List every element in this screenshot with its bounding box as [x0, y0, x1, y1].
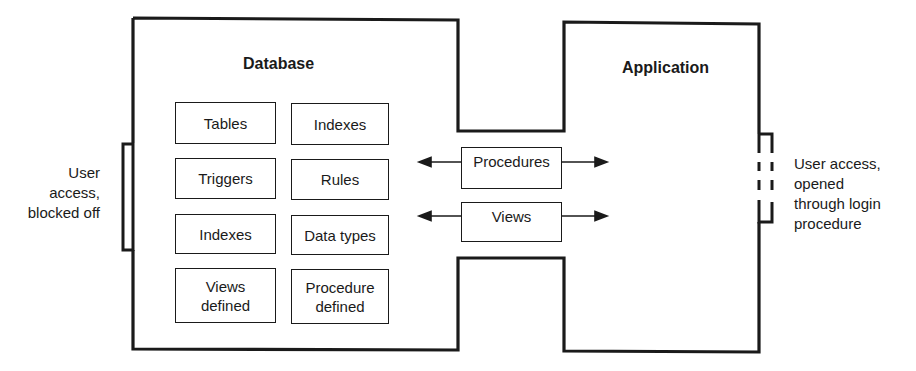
component-label: Tables: [204, 114, 247, 133]
component-label: Triggers: [198, 169, 252, 188]
arrow-right-icon: [595, 158, 607, 167]
component-label: Procedure defined: [305, 278, 374, 316]
diagram-outline: [0, 0, 916, 371]
component-tables: Tables: [175, 102, 276, 144]
component-views-defined: Views defined: [175, 268, 276, 323]
interface-views: Views: [461, 202, 562, 242]
arrow-left-icon: [419, 158, 431, 167]
interface-procedures: Procedures: [461, 147, 562, 189]
interface-label: Views: [492, 207, 532, 226]
component-indexes: Indexes: [291, 103, 389, 145]
component-label: Indexes: [199, 225, 252, 244]
database-title: Database: [243, 55, 314, 73]
right-annotation-open-access: User access, opened through login proced…: [794, 154, 881, 234]
component-procedure-defined: Procedure defined: [291, 269, 389, 324]
right-open-access-port: [759, 134, 772, 222]
component-label: Rules: [321, 170, 359, 189]
component-label: Indexes: [314, 115, 367, 134]
component-label: Views defined: [201, 277, 250, 315]
interface-label: Procedures: [473, 152, 550, 171]
component-indexes-2: Indexes: [175, 214, 276, 254]
left-annotation-blocked-access: User access, blocked off: [28, 163, 100, 223]
component-triggers: Triggers: [175, 158, 276, 199]
arrow-right-icon: [595, 212, 607, 221]
component-rules: Rules: [291, 159, 389, 200]
arrow-left-icon: [419, 212, 431, 221]
component-label: Data types: [304, 226, 376, 245]
left-blocked-access-tab: [123, 143, 133, 251]
application-title: Application: [622, 59, 709, 77]
component-data-types: Data types: [291, 215, 389, 255]
